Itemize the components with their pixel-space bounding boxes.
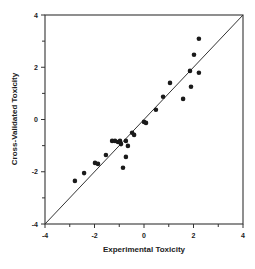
data-point xyxy=(181,97,186,102)
data-point xyxy=(189,85,194,90)
data-point xyxy=(82,171,87,176)
data-point xyxy=(96,162,101,167)
y-tick-label: 4 xyxy=(34,12,38,19)
y-tick-label: 0 xyxy=(34,116,38,123)
scatter-chart: -4-2024 -4-2024 Experimental Toxicity Cr… xyxy=(0,0,255,269)
data-point xyxy=(124,155,129,160)
data-point xyxy=(144,121,149,126)
data-point xyxy=(161,95,166,100)
data-point xyxy=(119,142,124,147)
data-point xyxy=(192,52,197,57)
data-point xyxy=(154,108,159,113)
y-tick-label: 2 xyxy=(34,64,38,71)
y-tick-label: -2 xyxy=(32,168,38,175)
x-tick-labels: -4-2024 xyxy=(42,232,245,239)
identity-line xyxy=(45,15,243,224)
x-tick-label: 2 xyxy=(192,232,196,239)
x-axis-title: Experimental Toxicity xyxy=(103,245,186,254)
x-tick-label: -2 xyxy=(91,232,97,239)
y-equals-x-line xyxy=(45,15,243,224)
data-point xyxy=(126,144,131,149)
y-axis-title: Cross-Validated Toxicity xyxy=(10,72,19,165)
data-point xyxy=(188,69,193,74)
data-point xyxy=(121,166,126,171)
data-point xyxy=(197,37,202,42)
data-point xyxy=(73,179,78,184)
data-point xyxy=(124,139,129,144)
x-tick-label: 0 xyxy=(142,232,146,239)
data-points xyxy=(73,37,202,184)
data-point xyxy=(197,70,202,75)
y-tick-labels: -4-2024 xyxy=(32,12,38,228)
data-point xyxy=(168,81,173,86)
x-tick-label: 4 xyxy=(241,232,245,239)
data-point xyxy=(104,153,109,158)
y-tick-label: -4 xyxy=(32,221,38,228)
data-point xyxy=(132,133,137,138)
x-tick-label: -4 xyxy=(42,232,48,239)
